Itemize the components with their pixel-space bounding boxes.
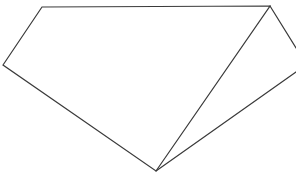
line-figure-svg xyxy=(0,0,296,174)
figure-canvas xyxy=(0,0,296,174)
polygon-face xyxy=(3,6,270,171)
wedge-upper-line xyxy=(270,6,296,48)
